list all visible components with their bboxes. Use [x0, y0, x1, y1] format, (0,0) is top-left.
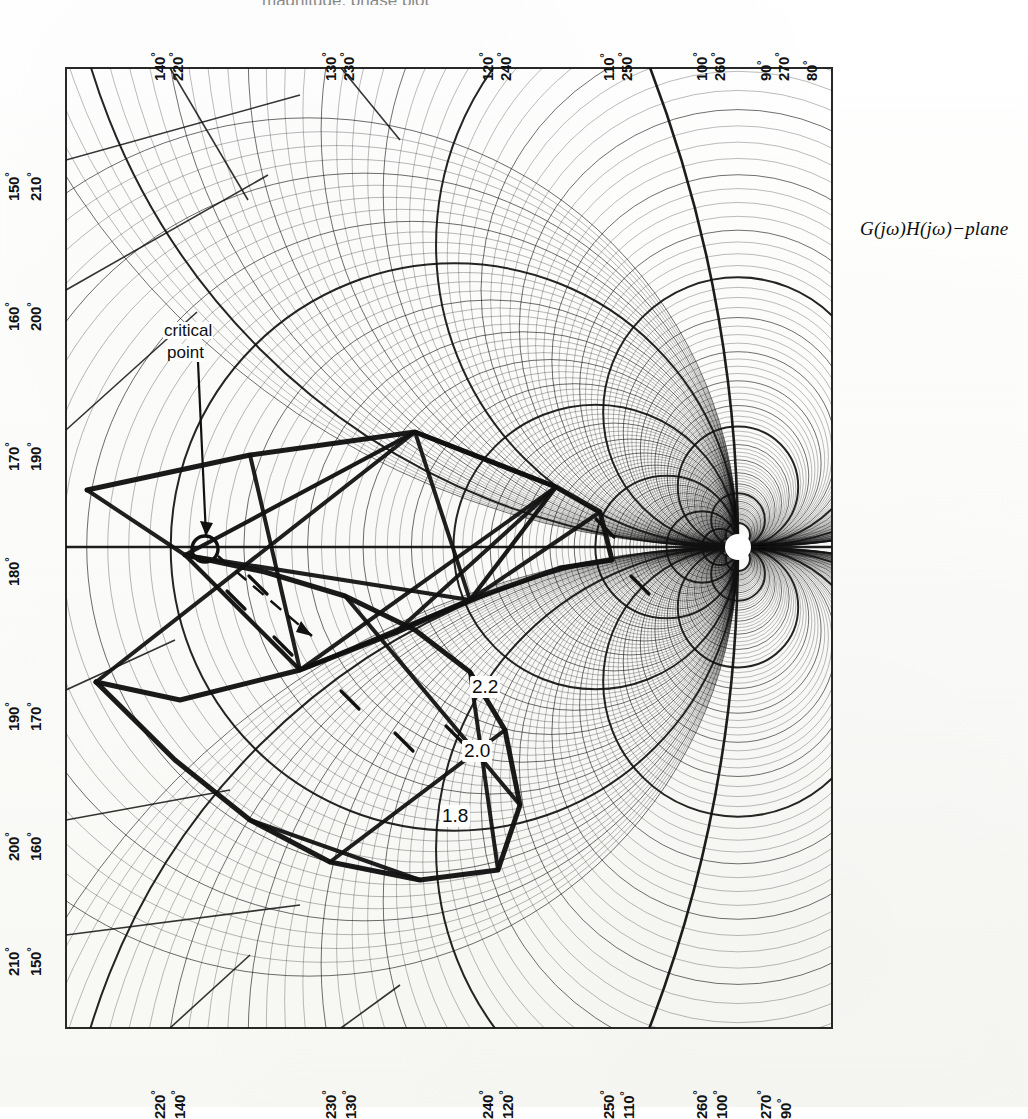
tick-bottom-inner-3: 110° [618, 1092, 637, 1119]
critical-point-label-line1: critical [163, 322, 213, 339]
tick-top-outer-0: 140° [149, 53, 168, 81]
tick-bottom-outer-3: 250° [598, 1091, 617, 1119]
tick-bottom-outer-4: 260° [691, 1091, 710, 1119]
tick-bottom-outer-2: 240° [477, 1091, 496, 1119]
tick-left-outer-2: 170° [3, 443, 22, 471]
m-contour-label-2.0: 2.0 [462, 740, 492, 762]
tick-top-inner-5: 270° [773, 53, 792, 81]
tick-left-outer-1: 160° [3, 303, 22, 331]
tick-left-outer-4: 190° [3, 703, 22, 731]
tick-bottom-outer-1: 230° [320, 1091, 339, 1119]
tick-left-outer-6: 210° [3, 948, 22, 976]
tick-top-inner-3: 250° [616, 53, 635, 81]
tick-bottom-outer-5: 270° [755, 1091, 774, 1119]
tick-bottom-outer-0: 220° [149, 1091, 168, 1119]
critical-point-label-line2: point [166, 344, 205, 361]
m-contour-label-2.2: 2.2 [470, 676, 500, 698]
tick-top-outer-4: 100° [691, 53, 710, 81]
tick-top-inner-0: 220° [167, 53, 186, 81]
m-contour-label-1.8: 1.8 [440, 805, 470, 827]
tick-bottom-inner-1: 130° [340, 1091, 359, 1119]
tick-top-inner-4: 260° [709, 53, 728, 81]
tick-top-inner-2: 240° [495, 53, 514, 81]
tick-left-inner-2: 190° [25, 443, 44, 471]
tick-top-outer-3: 110° [598, 54, 617, 81]
tick-left-inner-4: 170° [25, 703, 44, 731]
tick-top-outer-5: 90° [755, 61, 774, 81]
tick-top-outer-6: 80° [801, 61, 820, 81]
tick-top-outer-2: 120° [477, 53, 496, 81]
tick-left-inner-5: 160° [25, 833, 44, 861]
tick-top-inner-1: 230° [338, 53, 357, 81]
tick-left-inner-6: 150° [25, 948, 44, 976]
tick-bottom-inner-2: 120° [497, 1091, 516, 1119]
tick-left-outer-0: 150° [3, 173, 22, 201]
tick-bottom-inner-0: 140° [169, 1091, 188, 1119]
tick-bottom-inner-5: 90° [775, 1099, 794, 1119]
tick-bottom-inner-4: 100° [711, 1091, 730, 1119]
pole-center-marker [725, 534, 751, 560]
tick-left-inner-1: 200° [25, 303, 44, 331]
plane-label: G(jω)H(jω)−plane [860, 218, 1008, 240]
tick-left-outer-5: 200° [3, 833, 22, 861]
tick-left-inner-0: 210° [25, 173, 44, 201]
tick-top-outer-1: 130° [320, 53, 339, 81]
tick-left-outer-3: 180° [3, 558, 22, 586]
